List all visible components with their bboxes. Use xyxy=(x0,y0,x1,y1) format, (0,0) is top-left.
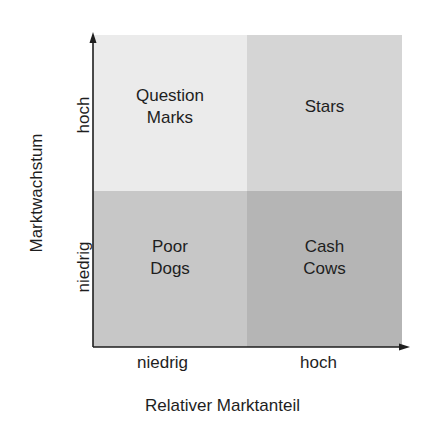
x-tick-low: niedrig xyxy=(137,353,188,373)
y-tick-high: hoch xyxy=(74,65,96,165)
y-axis-arrow-icon xyxy=(90,32,97,43)
x-axis-title: Relativer Marktanteil xyxy=(145,396,300,416)
y-axis-title: Marktwachstum xyxy=(27,118,49,268)
x-tick-high: hoch xyxy=(300,353,337,373)
axes xyxy=(0,0,424,436)
x-axis-arrow-icon xyxy=(399,344,410,351)
y-tick-low: niedrig xyxy=(74,217,96,317)
